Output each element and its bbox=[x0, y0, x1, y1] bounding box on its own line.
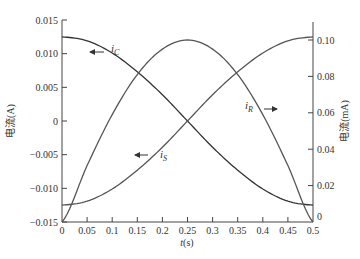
x-tick-label: 0 bbox=[60, 225, 65, 236]
y-left-tick-label: 0 bbox=[53, 116, 58, 127]
y-right-tick-label: 0.08 bbox=[317, 71, 335, 82]
series-iS-line bbox=[62, 37, 313, 205]
x-tick-label: 0.25 bbox=[179, 225, 197, 236]
left-y-axis-title: 电流(A) bbox=[4, 104, 17, 138]
x-tick-label: 0.5 bbox=[307, 225, 320, 236]
svg-text:iR: iR bbox=[245, 99, 253, 114]
x-tick-label: 0.15 bbox=[129, 225, 147, 236]
y-left-tick-label: 0.005 bbox=[36, 82, 59, 93]
svg-text:iC: iC bbox=[111, 42, 120, 57]
y-left-tick-label: −0.010 bbox=[30, 183, 58, 194]
x-tick-label: 0.45 bbox=[279, 225, 297, 236]
series-iS-label: iS bbox=[135, 148, 167, 163]
y-left-tick-label: −0.005 bbox=[30, 149, 58, 160]
y-left-tick-label: −0.015 bbox=[30, 217, 58, 228]
left-y-axis-ticks: 0.0150.0100.0050−0.005−0.010−0.015 bbox=[30, 15, 67, 228]
y-right-tick-label: 0.02 bbox=[317, 180, 335, 191]
y-left-tick-label: 0.010 bbox=[36, 48, 59, 59]
series-iR-line bbox=[62, 40, 313, 222]
x-tick-label: 0.35 bbox=[229, 225, 247, 236]
x-tick-label: 0.3 bbox=[206, 225, 219, 236]
x-tick-label: 0.4 bbox=[257, 225, 270, 236]
x-axis-ticks: 00.050.10.150.20.250.30.350.40.450.5 bbox=[60, 217, 320, 236]
y-right-tick-label: 0.06 bbox=[317, 107, 335, 118]
y-right-tick-label: 0.10 bbox=[317, 35, 335, 46]
svg-text:iS: iS bbox=[160, 148, 167, 163]
x-tick-label: 0.1 bbox=[106, 225, 119, 236]
x-tick-label: 0.05 bbox=[78, 225, 96, 236]
right-y-axis-title: 电流(mA) bbox=[338, 100, 351, 142]
x-axis-title: t(s) bbox=[180, 237, 193, 249]
line-chart: 00.050.10.150.20.250.30.350.40.450.5 0.0… bbox=[0, 0, 360, 259]
y-right-tick-label: 0.04 bbox=[317, 144, 335, 155]
y-right-tick-label: 0 bbox=[317, 211, 322, 222]
y-left-tick-label: 0.015 bbox=[36, 15, 59, 26]
x-tick-label: 0.2 bbox=[156, 225, 169, 236]
right-y-axis-ticks: 0.100.080.060.040.020 bbox=[308, 35, 335, 223]
